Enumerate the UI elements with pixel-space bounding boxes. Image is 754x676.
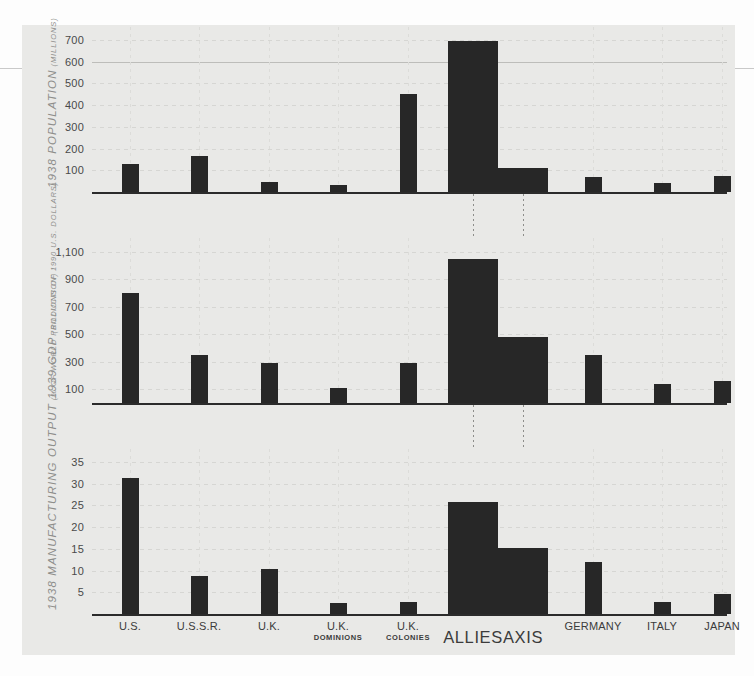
allies-axis-connector bbox=[473, 405, 474, 449]
axis-title-manufacturing: 1938 MANUFACTURING OUTPUT (% OF WORLD PR… bbox=[42, 273, 60, 610]
x-axis-label-line1: ALLIES bbox=[443, 628, 503, 647]
x-axis-label-germany: GERMANY bbox=[564, 620, 621, 632]
gridline-manufacturing-15 bbox=[92, 549, 727, 550]
vertical-gridline bbox=[722, 449, 723, 614]
bar-manufacturing-italy bbox=[654, 602, 671, 614]
vertical-gridline bbox=[408, 449, 409, 614]
x-axis-label-line1: U.K. bbox=[314, 620, 363, 632]
x-axis-label-line1: U.S. bbox=[119, 620, 141, 632]
bar-manufacturing-germany bbox=[585, 562, 602, 614]
chart-page: 1002003004005006007001938 POPULATION (MI… bbox=[0, 0, 754, 676]
axis-title-sub: (% OF WORLD PRODUCTION) bbox=[49, 273, 58, 403]
x-axis-label-line1: U.K. bbox=[258, 620, 280, 632]
bar-manufacturing-u-s bbox=[122, 478, 139, 614]
subplot-manufacturing: 51015202530351938 MANUFACTURING OUTPUT (… bbox=[22, 25, 735, 655]
x-axis-label-line1: ITALY bbox=[647, 620, 677, 632]
bar-manufacturing-axis bbox=[498, 548, 548, 614]
vertical-gridline bbox=[338, 449, 339, 614]
x-axis-label-line1: AXIS bbox=[503, 628, 543, 647]
x-axis-label-u-k-colonies: U.K.COLONIES bbox=[386, 620, 430, 642]
x-axis-label-japan: JAPAN bbox=[704, 620, 740, 632]
x-axis-label-line2: COLONIES bbox=[386, 633, 430, 642]
x-axis-label-axis: AXIS bbox=[503, 628, 543, 647]
vertical-gridline bbox=[662, 449, 663, 614]
x-axis-label-italy: ITALY bbox=[647, 620, 677, 632]
gridline-manufacturing-5 bbox=[92, 592, 727, 593]
x-axis-label-u-k-dominions: U.K.DOMINIONS bbox=[314, 620, 363, 642]
bar-manufacturing-allies bbox=[448, 502, 498, 614]
gridline-manufacturing-25 bbox=[92, 505, 727, 506]
chart-panel: 1002003004005006007001938 POPULATION (MI… bbox=[22, 25, 735, 655]
allies-axis-connector bbox=[523, 194, 524, 238]
gridline-manufacturing-30 bbox=[92, 484, 727, 485]
x-axis-label-u-k: U.K. bbox=[258, 620, 280, 632]
x-axis-label-allies: ALLIES bbox=[443, 628, 503, 647]
gridline-manufacturing-20 bbox=[92, 527, 727, 528]
allies-axis-connector bbox=[473, 194, 474, 238]
baseline-manufacturing bbox=[92, 614, 727, 616]
axis-title-main: 1938 MANUFACTURING OUTPUT bbox=[46, 403, 58, 610]
bar-manufacturing-u-s-s-r bbox=[191, 576, 208, 614]
gridline-manufacturing-35 bbox=[92, 462, 727, 463]
x-axis-label-line1: U.S.S.R. bbox=[177, 620, 221, 632]
bar-manufacturing-u-k-dominions bbox=[330, 603, 347, 614]
x-axis-label-u-s: U.S. bbox=[119, 620, 141, 632]
allies-axis-connector bbox=[523, 405, 524, 449]
bar-manufacturing-u-k bbox=[261, 569, 278, 614]
x-axis-label-line1: GERMANY bbox=[564, 620, 621, 632]
bar-manufacturing-u-k-colonies bbox=[400, 602, 417, 614]
x-axis-label-u-s-s-r: U.S.S.R. bbox=[177, 620, 221, 632]
gridline-manufacturing-10 bbox=[92, 571, 727, 572]
x-axis-label-line2: DOMINIONS bbox=[314, 633, 363, 642]
x-axis-label-line1: U.K. bbox=[386, 620, 430, 632]
x-axis-label-line1: JAPAN bbox=[704, 620, 740, 632]
bar-manufacturing-japan bbox=[714, 594, 731, 614]
